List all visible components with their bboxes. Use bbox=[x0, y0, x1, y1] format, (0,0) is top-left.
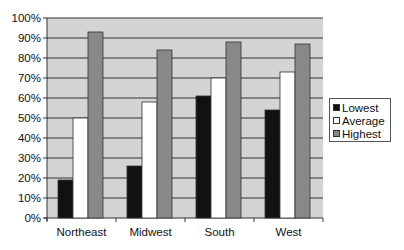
y-tick-label: 60% bbox=[18, 92, 41, 104]
legend-swatch-highest-icon bbox=[333, 130, 340, 137]
legend-swatch-average-icon bbox=[333, 117, 340, 124]
y-tick-label: 50% bbox=[18, 112, 41, 124]
bar-highest-northeast bbox=[88, 32, 103, 218]
bar-highest-south bbox=[226, 42, 241, 218]
y-tick-label: 100% bbox=[12, 12, 41, 24]
legend-label: Average bbox=[342, 115, 385, 127]
bar-average-northeast bbox=[73, 118, 88, 218]
x-category-label: South bbox=[185, 226, 254, 238]
y-tick-label: 40% bbox=[18, 132, 41, 144]
y-tick-label: 30% bbox=[18, 152, 41, 164]
y-tick-label: 0% bbox=[24, 212, 41, 224]
bar-average-midwest bbox=[142, 102, 157, 218]
bar-highest-west bbox=[295, 44, 310, 218]
legend-item-lowest: Lowest bbox=[333, 101, 390, 114]
bar-highest-midwest bbox=[157, 50, 172, 218]
bar-lowest-northeast bbox=[58, 180, 73, 218]
y-tick-label: 90% bbox=[18, 32, 41, 44]
x-category-label: West bbox=[254, 226, 323, 238]
y-tick-label: 10% bbox=[18, 192, 41, 204]
bar-chart: 0%10%20%30%40%50%60%70%80%90%100% Northe… bbox=[0, 0, 404, 250]
legend-item-highest: Highest bbox=[333, 127, 390, 140]
x-category-label: Northeast bbox=[47, 226, 116, 238]
legend-label: Lowest bbox=[342, 102, 378, 114]
y-tick-label: 70% bbox=[18, 72, 41, 84]
x-category-label: Midwest bbox=[116, 226, 185, 238]
y-tick-label: 80% bbox=[18, 52, 41, 64]
legend-swatch-lowest-icon bbox=[333, 104, 340, 111]
bar-average-west bbox=[280, 72, 295, 218]
bar-lowest-south bbox=[196, 96, 211, 218]
legend: Lowest Average Highest bbox=[329, 98, 391, 142]
bar-average-south bbox=[211, 78, 226, 218]
legend-item-average: Average bbox=[333, 114, 390, 127]
legend-label: Highest bbox=[342, 128, 381, 140]
y-tick-label: 20% bbox=[18, 172, 41, 184]
bar-lowest-midwest bbox=[127, 166, 142, 218]
bar-lowest-west bbox=[265, 110, 280, 218]
